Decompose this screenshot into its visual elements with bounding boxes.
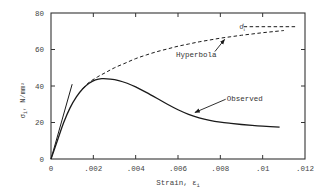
initial-tangent-curve	[51, 84, 72, 159]
y-tick-label: 80	[35, 10, 45, 18]
annotation-sigma-f-superscript: f	[242, 22, 244, 27]
x-axis-label-text: Strain, ε	[156, 179, 197, 187]
x-tick-label: .006	[169, 165, 188, 173]
annotation-sigma-f: σif	[239, 22, 245, 33]
y-axis-label-units: , N/mm²	[19, 82, 27, 111]
stress-strain-chart: 0.002.004.006.008.01.012 020406080 Hyper…	[0, 0, 331, 196]
x-axis-label: Strain, εi	[156, 179, 200, 189]
x-axis-label-subscript: i	[197, 183, 200, 189]
x-tick-label: .002	[84, 165, 102, 173]
x-tick-label: 0	[49, 165, 54, 173]
annotation-hyperbola-arrow	[215, 39, 225, 51]
y-tick-label: 60	[35, 46, 45, 54]
annotation-observed-arrow	[195, 99, 226, 112]
data-series	[51, 27, 297, 159]
annotation-hyperbola: Hyperbola	[176, 51, 217, 59]
annotation-observed: Observed	[227, 95, 263, 103]
annotation-hyperbola-text: Hyperbola	[176, 51, 217, 59]
x-tick-label: .012	[296, 165, 314, 173]
x-tick-label: .004	[127, 165, 146, 173]
y-tick-label: 20	[35, 119, 45, 127]
x-tick-label: .008	[211, 165, 229, 173]
plot-border	[51, 13, 305, 159]
x-tick-label: .01	[256, 165, 270, 173]
observed-curve	[51, 79, 280, 159]
y-axis-label: σi, N/mm²	[19, 82, 29, 119]
plot-frame	[51, 13, 305, 159]
y-tick-label: 40	[35, 83, 45, 91]
x-axis-ticks: 0.002.004.006.008.01.012	[49, 13, 314, 173]
annotation-observed-text: Observed	[227, 95, 263, 103]
annotation-sigma-f-subscript: i	[243, 27, 245, 32]
annotations: HyperbolaObservedσif	[176, 22, 263, 113]
y-tick-label: 0	[39, 156, 44, 164]
